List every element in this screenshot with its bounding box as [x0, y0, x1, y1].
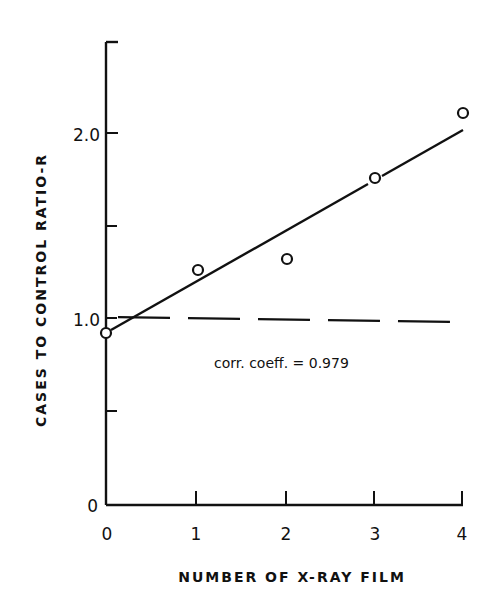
x-axis-title: NUMBER OF X-RAY FILM	[178, 569, 406, 585]
data-point-2	[282, 254, 292, 264]
reference-line	[112, 317, 463, 322]
x-tick-0: 0	[102, 524, 113, 544]
chart: 0 1 2 3 4 0 1.0 2.0 NUMBER OF X-RAY FILM…	[0, 0, 492, 596]
x-tick-3: 3	[370, 524, 381, 544]
x-tick-4: 4	[457, 524, 468, 544]
correlation-annotation: corr. coeff. = 0.979	[214, 355, 349, 371]
data-point-1	[193, 265, 203, 275]
fit-line	[111, 130, 463, 330]
x-tick-2: 2	[281, 524, 292, 544]
y-tick-1: 1.0	[73, 310, 100, 330]
x-tick-1: 1	[191, 524, 202, 544]
data-point-0	[101, 328, 111, 338]
data-point-3	[370, 173, 380, 183]
y-tick-0: 0	[87, 496, 98, 516]
data-point-4	[458, 108, 468, 118]
y-axis-title: CASES TO CONTROL RATIO-R	[33, 153, 49, 427]
y-tick-2: 2.0	[73, 125, 100, 145]
y-axis	[106, 42, 118, 505]
x-axis	[106, 491, 463, 505]
